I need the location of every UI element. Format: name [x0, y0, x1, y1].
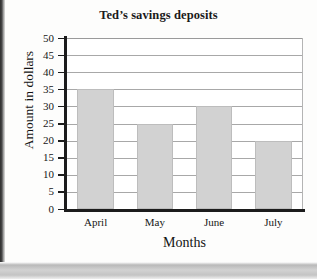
- chart-title: Ted’s savings deposits: [0, 8, 317, 23]
- x-tick-label-june: June: [185, 216, 244, 228]
- bar-april: [77, 89, 113, 209]
- x-tick-label-july: July: [244, 216, 303, 228]
- y-tick-mark-30: [58, 106, 65, 108]
- y-tick-mark-45: [58, 55, 65, 57]
- bars-layer: [66, 38, 303, 209]
- y-tick-mark-15: [58, 157, 65, 159]
- x-tick-label-april: April: [66, 216, 125, 228]
- page-left-edge-artifact: [0, 0, 5, 262]
- y-tick-label-0: 0: [28, 204, 54, 215]
- y-axis-title: Amount in dollars: [21, 25, 37, 175]
- y-tick-label-5: 5: [28, 186, 54, 197]
- page-bottom-edge-artifact: [0, 262, 317, 279]
- y-tick-mark-20: [58, 140, 65, 142]
- bar-june: [196, 106, 232, 209]
- y-tick-mark-5: [58, 191, 65, 193]
- chart-page: Ted’s savings deposits 50454035302520151…: [0, 0, 317, 279]
- x-tick-label-may: May: [125, 216, 184, 228]
- y-tick-mark-10: [58, 174, 65, 176]
- y-tick-mark-40: [58, 72, 65, 74]
- bar-july: [255, 141, 291, 209]
- y-tick-mark-50: [58, 38, 65, 40]
- x-axis-line: [64, 209, 305, 212]
- y-tick-mark-0: [58, 209, 65, 211]
- bar-may: [137, 124, 173, 210]
- x-axis-title: Months: [66, 235, 303, 251]
- y-tick-mark-25: [58, 123, 65, 125]
- y-tick-mark-35: [58, 89, 65, 91]
